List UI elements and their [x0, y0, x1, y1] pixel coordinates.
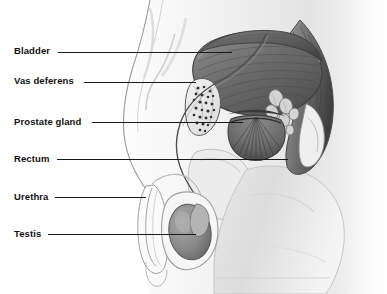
edge-fade — [344, 0, 387, 294]
label-vas-deferens: Vas deferens — [14, 76, 74, 86]
anatomy-figure — [0, 0, 387, 294]
label-prostate-gland: Prostate gland — [14, 117, 81, 127]
label-bladder: Bladder — [14, 46, 50, 56]
anatomy-illustration — [0, 0, 387, 294]
label-rectum: Rectum — [14, 154, 49, 164]
label-urethra: Urethra — [14, 192, 49, 202]
label-testis: Testis — [14, 229, 41, 239]
